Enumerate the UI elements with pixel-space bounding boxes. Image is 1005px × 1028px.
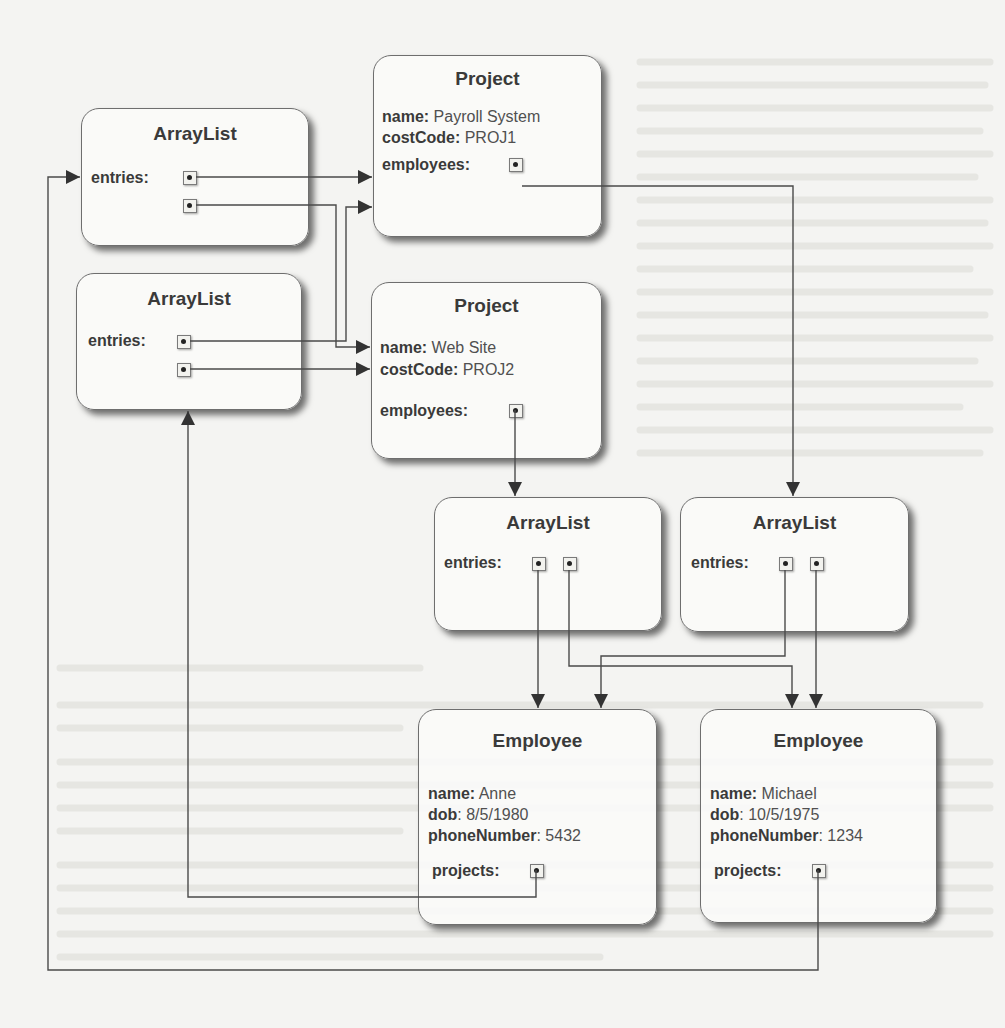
- entry-pointer-icon[interactable]: [779, 557, 793, 571]
- employee-name-field: name: Anne: [428, 785, 516, 803]
- employee-phone-field: phoneNumber: 5432: [428, 827, 581, 845]
- project-employees-field: employees:: [382, 156, 470, 174]
- arraylist-title: ArrayList: [681, 512, 908, 534]
- entries-label: entries:: [88, 332, 146, 350]
- project-name-field: name: Web Site: [380, 339, 496, 357]
- employee-title: Employee: [701, 730, 936, 752]
- employee-dob-field: dob: 8/5/1980: [428, 806, 529, 824]
- entry-pointer-icon[interactable]: [177, 363, 191, 377]
- project-title: Project: [372, 295, 601, 317]
- projects-pointer-icon[interactable]: [530, 864, 544, 878]
- entries-label: entries:: [444, 554, 502, 572]
- arraylist-box-4: ArrayList entries:: [680, 497, 909, 632]
- entries-label: entries:: [91, 169, 149, 187]
- arraylist-title: ArrayList: [82, 123, 308, 145]
- employee-dob-field: dob: 10/5/1975: [710, 806, 819, 824]
- employee-projects-field: projects:: [714, 862, 782, 880]
- arraylist-box-3: ArrayList entries:: [434, 497, 662, 631]
- employee-projects-field: projects:: [432, 862, 500, 880]
- project-costcode-field: costCode: PROJ2: [380, 361, 514, 379]
- entry-pointer-icon[interactable]: [810, 557, 824, 571]
- employees-pointer-icon[interactable]: [509, 158, 523, 172]
- employee-title: Employee: [419, 730, 656, 752]
- entries-label: entries:: [691, 554, 749, 572]
- project-costcode-field: costCode: PROJ1: [382, 129, 516, 147]
- project-name-field: name: Payroll System: [382, 108, 540, 126]
- project-box-website: Project name: Web Site costCode: PROJ2 e…: [371, 282, 602, 459]
- employees-pointer-icon[interactable]: [509, 404, 523, 418]
- entry-pointer-icon[interactable]: [183, 199, 197, 213]
- entry-pointer-icon[interactable]: [183, 171, 197, 185]
- arraylist-box-1: ArrayList entries:: [81, 108, 309, 246]
- employee-box-michael: Employee name: Michael dob: 10/5/1975 ph…: [700, 709, 937, 923]
- arraylist-title: ArrayList: [77, 288, 301, 310]
- employee-phone-field: phoneNumber: 1234: [710, 827, 863, 845]
- arraylist-title: ArrayList: [435, 512, 661, 534]
- arraylist-box-2: ArrayList entries:: [76, 273, 302, 410]
- entry-pointer-icon[interactable]: [177, 335, 191, 349]
- employee-name-field: name: Michael: [710, 785, 817, 803]
- employee-box-anne: Employee name: Anne dob: 8/5/1980 phoneN…: [418, 709, 657, 925]
- entry-pointer-icon[interactable]: [532, 557, 546, 571]
- projects-pointer-icon[interactable]: [812, 864, 826, 878]
- project-employees-field: employees:: [380, 402, 468, 420]
- project-title: Project: [374, 68, 601, 90]
- entry-pointer-icon[interactable]: [563, 557, 577, 571]
- project-box-payroll: Project name: Payroll System costCode: P…: [373, 55, 602, 237]
